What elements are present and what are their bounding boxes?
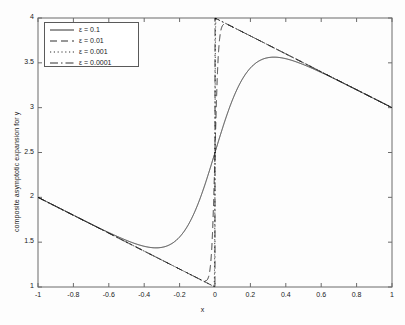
figure-canvas: composite asymptotic expansion for y x -…	[0, 0, 405, 325]
x-tick-label: 1	[372, 291, 405, 298]
x-tick-label: -0.2	[160, 291, 200, 298]
y-tick-label: 2	[4, 192, 34, 199]
y-tick-label: 2.5	[4, 148, 34, 155]
legend-line-sample-2	[49, 47, 75, 57]
legend-item-3: ε = 0.0001	[45, 57, 140, 68]
y-tick-label: 4	[4, 13, 34, 20]
legend-line-sample-0	[49, 25, 75, 35]
legend: ε = 0.1 ε = 0.01 ε = 0.001 ε = 0.0001	[44, 22, 139, 67]
legend-label-0: ε = 0.1	[79, 26, 100, 33]
x-tick-label: 0.6	[301, 291, 341, 298]
x-axis-label: x	[0, 306, 405, 313]
legend-label-1: ε = 0.01	[79, 37, 104, 44]
legend-item-0: ε = 0.1	[45, 24, 140, 35]
x-tick-label: -0.6	[89, 291, 129, 298]
x-tick-label: -0.4	[124, 291, 164, 298]
y-tick-label: 1	[4, 282, 34, 289]
y-tick-label: 1.5	[4, 237, 34, 244]
x-tick-label: 0.4	[266, 291, 306, 298]
y-tick-label: 3	[4, 103, 34, 110]
legend-label-2: ε = 0.001	[79, 48, 108, 55]
x-tick-label: -1	[18, 291, 58, 298]
x-tick-label: -0.8	[53, 291, 93, 298]
y-axis-label: composite asymptotic expansion for y	[13, 112, 20, 232]
x-tick-label: 0.2	[230, 291, 270, 298]
legend-item-2: ε = 0.001	[45, 46, 140, 57]
legend-item-1: ε = 0.01	[45, 35, 140, 46]
legend-line-sample-1	[49, 36, 75, 46]
legend-line-sample-3	[49, 58, 75, 68]
x-tick-label: 0.8	[337, 291, 377, 298]
y-tick-label: 3.5	[4, 58, 34, 65]
legend-label-3: ε = 0.0001	[79, 59, 112, 66]
x-tick-label: 0	[195, 291, 235, 298]
